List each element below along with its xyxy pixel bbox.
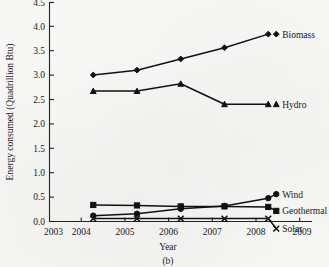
data-point-geothermal-2005[interactable] [134,203,139,208]
x-tick-label-2004: 2004 [72,227,91,237]
data-point-biomass-2007[interactable] [222,45,228,51]
y-tick-label-8: 4.0 [33,22,45,32]
figure-caption: (b) [162,256,173,267]
x-tick-label-2007: 2007 [203,227,222,237]
data-point-geothermal-2007[interactable] [222,204,227,209]
legend-marker-hydro [273,101,279,106]
data-point-biomass-2005[interactable] [134,67,140,73]
y-tick-label-3: 1.5 [33,144,45,154]
y-tick-label-0: 0.0 [33,217,45,227]
y-tick-label-6: 3.0 [33,70,45,80]
energy-consumed-line-chart: 0.0 0.5 1.0 1.5 2.0 2.5 3.0 3.5 4.0 4.5 … [0,0,329,267]
legend-marker-wind [274,191,279,196]
y-tick-label-7: 3.5 [33,46,45,56]
series-label-hydro: Hydro [282,100,307,110]
series-label-solar: Solar [282,224,303,234]
series-label-layer: BiomassHydroWindGeothermalSolar [268,30,327,234]
y-tick-label-2: 1.0 [33,168,45,178]
chart-canvas: 0.0 0.5 1.0 1.5 2.0 2.5 3.0 3.5 4.0 4.5 … [0,0,329,267]
data-point-geothermal-2006[interactable] [178,204,183,209]
series-layer [90,31,271,221]
series-label-wind: Wind [282,190,303,200]
x-tick-label-2003: 2003 [44,227,63,237]
data-point-biomass-2004[interactable] [90,72,96,78]
x-axis-title: Year [159,242,177,252]
legend-marker-geothermal [274,208,279,213]
y-tick-label-1: 0.5 [33,192,45,202]
x-tick-label-2008: 2008 [247,227,266,237]
data-point-wind-2005[interactable] [134,211,139,216]
series-label-biomass: Biomass [282,30,315,40]
y-tick-label-9: 4.5 [33,0,45,8]
legend-marker-biomass [273,31,279,37]
x-tick-label-2006: 2006 [159,227,178,237]
y-axis-ticks [50,3,55,222]
series-label-geothermal: Geothermal [282,206,327,216]
data-point-biomass-2006[interactable] [178,56,184,62]
y-tick-label-5: 2.5 [33,95,45,105]
data-point-geothermal-2004[interactable] [91,202,96,207]
y-axis-title: Energy consumed (Quadrillion Btu) [5,44,16,181]
y-tick-label-4: 2.0 [33,119,45,129]
data-point-biomass-2008[interactable] [265,31,271,37]
series-line-hydro [93,84,268,104]
series-line-biomass [93,34,268,75]
x-tick-label-2005: 2005 [115,227,134,237]
legend-marker-solar [273,226,279,232]
